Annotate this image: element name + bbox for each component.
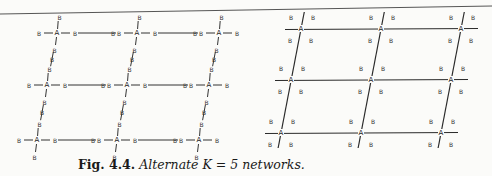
node-a: A <box>207 81 212 89</box>
node-b: B <box>130 56 134 63</box>
node-b: B <box>369 14 373 21</box>
node-b: B <box>179 137 183 144</box>
node-b: B <box>40 109 44 116</box>
node-b: B <box>459 88 463 95</box>
node-b: B <box>429 118 433 125</box>
node-b: B <box>137 14 141 21</box>
stub-line <box>198 144 199 152</box>
node-b: B <box>37 30 41 37</box>
figure-caption: Fig. 4.4. Alternate K = 5 networks. <box>78 157 305 172</box>
node-b: B <box>289 141 293 148</box>
node-b: B <box>349 118 353 125</box>
stub-line <box>208 89 209 97</box>
node-b: B <box>53 137 57 144</box>
node-b: B <box>199 30 203 37</box>
stub-line <box>38 128 39 136</box>
node-b: B <box>42 99 46 106</box>
stub-line <box>138 21 139 29</box>
node-b: B <box>52 47 56 54</box>
stub-line <box>56 37 57 45</box>
stub-line <box>118 128 119 136</box>
node-b: B <box>461 65 465 72</box>
node-a: A <box>289 76 294 84</box>
node-b: B <box>438 88 442 95</box>
node-a: A <box>125 81 130 89</box>
node-b: B <box>309 37 313 44</box>
node-b: B <box>204 99 208 106</box>
node-b: B <box>268 141 272 148</box>
node-b: B <box>449 14 453 21</box>
stub-line <box>136 37 137 45</box>
node-b: B <box>122 99 126 106</box>
node-b: B <box>127 66 131 73</box>
node-a: A <box>369 76 374 84</box>
node-b: B <box>301 65 305 72</box>
node-b: B <box>451 118 455 125</box>
node-a: A <box>35 136 40 144</box>
figure-number: Fig. 4.4. <box>78 157 135 172</box>
node-b: B <box>117 121 121 128</box>
node-b: B <box>143 82 147 89</box>
node-b: B <box>209 66 213 73</box>
node-b: B <box>212 56 216 63</box>
node-a: A <box>299 25 304 33</box>
node-b: B <box>448 37 452 44</box>
node-b: B <box>439 65 443 72</box>
node-a: A <box>279 129 284 137</box>
node-b: B <box>173 137 177 144</box>
node-b: B <box>111 30 115 37</box>
node-b: B <box>101 82 105 89</box>
node-b: B <box>389 37 393 44</box>
node-a: A <box>459 25 464 33</box>
node-a: A <box>449 76 454 84</box>
node-b: B <box>269 118 273 125</box>
node-b: B <box>371 118 375 125</box>
stub-line <box>46 89 47 97</box>
node-b: B <box>311 14 315 21</box>
node-b: B <box>50 56 54 63</box>
node-b: B <box>47 66 51 73</box>
node-b: B <box>278 88 282 95</box>
stub-line <box>48 73 49 81</box>
node-a: A <box>359 129 364 137</box>
node-b: B <box>183 82 187 89</box>
node-b: B <box>57 14 61 21</box>
node-a: A <box>135 29 140 37</box>
node-b: B <box>37 121 41 128</box>
stub-line <box>210 73 211 81</box>
node-b: B <box>291 118 295 125</box>
stub-line <box>200 128 201 136</box>
node-b: B <box>379 88 383 95</box>
stub-line <box>128 73 129 81</box>
node-b: B <box>299 88 303 95</box>
node-b: B <box>120 109 124 116</box>
node-b: B <box>132 47 136 54</box>
node-a: A <box>45 81 50 89</box>
node-b: B <box>469 37 473 44</box>
network-diagrams: ABBBBABBBBABBBBABBBBABBBBABBBBABBBBABBBB… <box>0 0 492 176</box>
node-b: B <box>348 141 352 148</box>
node-a: A <box>217 29 222 37</box>
right-network: AAAAAAAAABBBBBBBBBBBBBBBBBBBBBBBBBBBBBBB… <box>265 12 478 148</box>
node-b: B <box>189 82 193 89</box>
node-a: A <box>439 129 444 137</box>
node-b: B <box>117 30 121 37</box>
node-a: A <box>197 136 202 144</box>
node-a: A <box>115 136 120 144</box>
figure-page: ABBBBABBBBABBBBABBBBABBBBABBBBABBBBABBBB… <box>0 0 492 176</box>
node-b: B <box>289 14 293 21</box>
stub-line <box>218 37 219 45</box>
node-b: B <box>235 30 239 37</box>
node-b: B <box>73 30 77 37</box>
node-b: B <box>27 82 31 89</box>
node-b: B <box>215 137 219 144</box>
node-b: B <box>369 141 373 148</box>
node-b: B <box>202 109 206 116</box>
node-b: B <box>288 37 292 44</box>
node-b: B <box>428 141 432 148</box>
node-b: B <box>359 65 363 72</box>
node-b: B <box>391 14 395 21</box>
page-top-edge <box>0 6 492 14</box>
node-b: B <box>153 30 157 37</box>
node-b: B <box>219 14 223 21</box>
